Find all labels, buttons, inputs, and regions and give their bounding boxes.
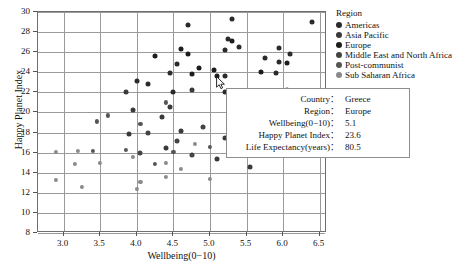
data-point[interactable] — [98, 161, 102, 165]
mouse-cursor-icon — [216, 76, 226, 90]
data-point[interactable] — [123, 90, 128, 95]
data-point[interactable] — [167, 71, 172, 76]
data-point[interactable] — [131, 155, 135, 159]
data-point[interactable] — [164, 100, 168, 104]
data-point[interactable] — [175, 138, 180, 143]
data-point[interactable] — [164, 145, 169, 150]
data-point[interactable] — [164, 161, 168, 165]
data-point[interactable] — [94, 119, 98, 123]
y-tick-label: 14 — [21, 168, 30, 177]
data-point[interactable] — [310, 20, 315, 25]
data-point[interactable] — [222, 48, 227, 53]
data-point[interactable] — [127, 131, 132, 136]
data-point[interactable] — [185, 52, 190, 57]
tooltip-row: Life Expectancy(years)：80.5 — [231, 141, 401, 153]
x-tick-mark — [246, 232, 247, 236]
data-point[interactable] — [189, 88, 194, 93]
data-point[interactable] — [135, 187, 139, 191]
data-point[interactable] — [124, 148, 128, 152]
gridline-horizontal — [38, 12, 325, 13]
data-point[interactable] — [138, 180, 142, 184]
data-point[interactable] — [208, 177, 212, 181]
data-point[interactable] — [178, 128, 183, 133]
tooltip-row: Wellbeing(0−10)：5.1 — [231, 117, 401, 129]
tooltip-value: 5.1 — [339, 117, 401, 129]
data-point[interactable] — [171, 89, 176, 94]
data-point[interactable] — [277, 46, 282, 51]
data-point[interactable] — [54, 178, 58, 182]
tooltip-key: Happy Planet Index： — [259, 129, 339, 141]
tooltip-row: Country：Greece — [231, 93, 401, 105]
legend-item[interactable]: Americas — [336, 20, 458, 30]
legend-item[interactable]: Asia Pacific — [336, 30, 458, 40]
y-tick-label: 12 — [21, 188, 30, 197]
y-tick-label: 22 — [21, 87, 30, 96]
data-point[interactable] — [131, 108, 136, 113]
scatter-plot-screenshot: Happy Planet Index 810121416182022242628… — [0, 0, 461, 272]
data-point[interactable] — [200, 124, 205, 129]
data-point[interactable] — [229, 17, 234, 22]
data-point[interactable] — [208, 145, 212, 149]
x-tick-label: 5.5 — [232, 239, 260, 248]
x-tick-mark — [63, 232, 64, 236]
x-tick-mark — [319, 232, 320, 236]
x-tick-label: 4.0 — [122, 239, 150, 248]
data-point[interactable] — [179, 167, 183, 171]
legend-item-label: Asia Pacific — [345, 30, 389, 40]
tooltip-key: Wellbeing(0−10)： — [269, 117, 339, 129]
data-point[interactable] — [277, 60, 282, 65]
x-tick-mark — [282, 232, 283, 236]
gridline-vertical — [100, 12, 101, 231]
data-point[interactable] — [153, 54, 158, 59]
data-point[interactable] — [189, 72, 194, 77]
data-point[interactable] — [259, 70, 264, 75]
legend-title: Region — [336, 8, 458, 19]
data-point[interactable] — [189, 152, 194, 157]
legend-item[interactable]: Middle East and North Africa — [336, 50, 458, 60]
data-point[interactable] — [105, 113, 109, 117]
legend-swatch-circle-icon — [336, 32, 342, 38]
data-point[interactable] — [185, 23, 190, 28]
data-point[interactable] — [237, 45, 242, 50]
data-point[interactable] — [175, 62, 180, 67]
data-point[interactable] — [153, 162, 157, 166]
legend-items[interactable]: AmericasAsia PacificEuropeMiddle East an… — [336, 20, 458, 80]
legend-item[interactable]: Europe — [336, 40, 458, 50]
tooltip-value: Europe — [339, 105, 401, 117]
data-point[interactable] — [134, 78, 139, 83]
data-point[interactable] — [164, 175, 168, 179]
data-point[interactable] — [193, 142, 197, 146]
y-tick-mark — [33, 232, 37, 233]
data-point[interactable] — [145, 130, 150, 135]
data-point[interactable] — [211, 68, 216, 73]
data-point[interactable] — [196, 66, 201, 71]
gridline-horizontal — [38, 173, 325, 174]
legend-item-label: Europe — [345, 40, 371, 50]
data-point[interactable] — [248, 164, 253, 169]
legend-swatch-circle-icon — [336, 52, 342, 58]
legend-swatch-circle-icon — [336, 62, 342, 68]
tooltip-row: Region：Europe — [231, 105, 401, 117]
data-point[interactable] — [178, 47, 183, 52]
gridline-vertical — [210, 12, 211, 231]
y-tick-label: 30 — [21, 7, 30, 16]
data-point[interactable] — [138, 150, 143, 155]
data-point[interactable] — [273, 71, 278, 76]
data-point[interactable] — [80, 185, 84, 189]
legend-item-label: Americas — [345, 20, 379, 30]
data-point[interactable] — [215, 156, 220, 161]
legend-item[interactable]: Sub Saharan Africa — [336, 70, 458, 80]
data-point[interactable] — [262, 56, 267, 61]
data-point[interactable] — [288, 52, 293, 57]
data-point[interactable] — [138, 121, 142, 125]
data-point[interactable] — [145, 81, 150, 86]
data-point[interactable] — [160, 115, 165, 120]
data-point[interactable] — [284, 61, 289, 66]
x-tick-label: 4.5 — [158, 239, 186, 248]
y-tick-label: 20 — [21, 107, 30, 116]
data-point[interactable] — [229, 39, 234, 44]
legend-item[interactable]: Post-communist — [336, 60, 458, 70]
data-point[interactable] — [167, 105, 172, 110]
data-point[interactable] — [72, 162, 76, 166]
x-axis-title: Wellbeing(0−10) — [37, 250, 326, 261]
